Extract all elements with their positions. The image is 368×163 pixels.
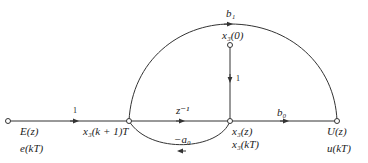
state-label-z: x₃(z) <box>232 126 252 137</box>
node-output <box>335 119 340 124</box>
state-next-label: x₃(k + 1)T <box>83 126 128 137</box>
output-label-z: U(z) <box>327 126 347 137</box>
initial-gain-label: 1 <box>236 75 240 83</box>
feedforward-label: b₁ <box>226 8 235 19</box>
state-label-t: x₃(kT) <box>232 139 259 150</box>
input-label-t: e(kT) <box>20 143 43 154</box>
output-gain-label: b₀ <box>277 107 286 118</box>
feedback-label: −a₀ <box>174 134 191 145</box>
node-state <box>228 119 233 124</box>
initial-label: x₃(0) <box>222 30 244 41</box>
node-initial <box>228 43 233 48</box>
input-label-z: E(z) <box>20 126 38 137</box>
node-input <box>6 119 11 124</box>
input-gain-label: 1 <box>73 107 77 115</box>
node-state-next <box>127 119 132 124</box>
delay-label: z⁻¹ <box>176 105 189 116</box>
output-label-t: u(kT) <box>327 143 351 154</box>
